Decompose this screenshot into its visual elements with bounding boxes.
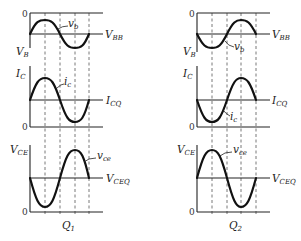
q1-ic-axis-label: IC xyxy=(15,67,26,81)
q1-ic-wave-label: ic xyxy=(64,75,71,89)
q1-vb-plot: 0 VBB vb VB xyxy=(16,9,123,59)
q2-ic-axis-label: IC xyxy=(182,67,193,81)
q1-vb-axis-label: VB xyxy=(16,45,29,59)
q2-vb-zero: 0 xyxy=(189,9,195,19)
waveform-diagram: 0 VBB vb VB 0 IC ic ICQ 0 VCE vce xyxy=(0,0,301,241)
q1-vce-plot: 0 VCE vce VCEQ xyxy=(10,143,130,217)
q1-ic-plot: 0 IC ic ICQ xyxy=(15,66,122,132)
q2-vceq-label: VCEQ xyxy=(272,172,296,186)
q1-vb-wave-label: vb xyxy=(68,17,79,31)
q2-vce-plot: 0 VCE vce VCEQ xyxy=(177,143,296,217)
q1-icq-label: ICQ xyxy=(105,94,122,108)
q1-vb-zero: 0 xyxy=(22,9,28,19)
q2-ic-plot: 0 IC ic ICQ xyxy=(182,66,288,132)
q2-vce-axis-label: VCE xyxy=(177,143,195,157)
time-guides xyxy=(45,13,89,214)
q2-vbb-label: VBB xyxy=(272,28,290,42)
q1-vce-zero: 0 xyxy=(22,207,28,217)
q1-ic-zero: 0 xyxy=(22,122,28,132)
q2-vb-plot: 0 VBB vb VB xyxy=(183,9,290,59)
q2-vb-axis-label: VB xyxy=(183,45,196,59)
q2-icq-label: ICQ xyxy=(271,94,288,108)
panel-q2: 0 VBB vb VB 0 IC ic ICQ 0 VCE vce xyxy=(177,9,296,233)
q1-vce-axis-label: VCE xyxy=(10,143,28,157)
q2-ic-zero: 0 xyxy=(189,122,195,132)
q2-caption: Q2 xyxy=(229,219,243,233)
q1-vceq-label: VCEQ xyxy=(106,172,130,186)
q2-vb-wave-label: vb xyxy=(234,40,245,54)
q2-ic-wave-label: ic xyxy=(230,110,237,124)
q2-vce-wave-label: vce xyxy=(233,143,247,157)
q2-vce-zero: 0 xyxy=(189,207,195,217)
q1-caption: Q1 xyxy=(62,219,75,233)
panel-q1: 0 VBB vb VB 0 IC ic ICQ 0 VCE vce xyxy=(10,9,130,233)
q1-vbb-label: VBB xyxy=(105,28,123,42)
q1-vce-wave-label: vce xyxy=(97,149,111,163)
